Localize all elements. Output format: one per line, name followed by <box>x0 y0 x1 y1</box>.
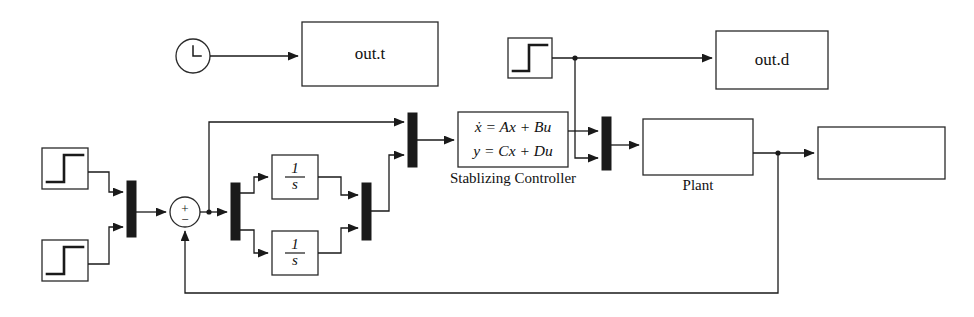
integrator-1-numerator: 1 <box>291 160 299 176</box>
integrator-block-1[interactable]: 1 s <box>272 155 318 199</box>
integrator-1-denominator: s <box>292 176 298 192</box>
input-mux-block[interactable] <box>127 181 136 237</box>
state-mux-block[interactable] <box>362 183 371 240</box>
controller-input-mux-block[interactable] <box>408 113 417 167</box>
integrator-block-2[interactable]: 1 s <box>272 231 318 275</box>
out-y-sink-box <box>818 127 945 179</box>
out-d-sink[interactable]: out.d <box>716 31 828 89</box>
plant-caption: Plant <box>683 177 715 193</box>
controller-equation-state: ẋ = Ax + Bu <box>474 118 552 135</box>
clock-block[interactable] <box>176 39 210 73</box>
integrator-2-denominator: s <box>292 252 298 268</box>
sum-junction-block[interactable]: + − <box>170 197 200 227</box>
controller-caption: Stablizing Controller <box>450 170 576 186</box>
reference-step-block-1[interactable] <box>42 148 88 189</box>
disturbance-step-block[interactable] <box>508 38 552 78</box>
out-y-sink[interactable] <box>818 127 945 179</box>
controller-equation-output: y = Cx + Du <box>471 142 553 159</box>
integrator-2-numerator: 1 <box>291 236 299 252</box>
plant-block[interactable] <box>643 119 753 175</box>
sum-minus-sign: − <box>181 212 188 227</box>
out-t-sink[interactable]: out.t <box>302 22 438 86</box>
plant-box <box>643 119 753 175</box>
out-d-sink-label: out.d <box>755 50 790 69</box>
plant-input-mux-block[interactable] <box>602 117 611 170</box>
out-t-sink-label: out.t <box>355 44 386 63</box>
diagram-svg: out.t out.d + − 1 s <box>0 0 974 317</box>
state-demux-block[interactable] <box>231 183 240 240</box>
reference-step-block-2[interactable] <box>42 240 88 281</box>
block-diagram-canvas: out.t out.d + − 1 s <box>0 0 974 317</box>
stabilizing-controller-block[interactable]: ẋ = Ax + Bu y = Cx + Du <box>458 112 568 167</box>
